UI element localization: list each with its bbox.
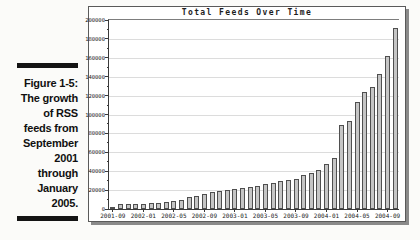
bar [271, 183, 276, 209]
bar [202, 194, 207, 209]
plot-area: 0200004000060000800001000001200001400001… [108, 19, 399, 210]
y-axis-minor-tick [107, 67, 109, 68]
bar [217, 191, 222, 209]
y-axis-major-tick [105, 209, 109, 210]
y-axis-minor-tick [107, 199, 109, 200]
y-axis-label: 200000 [75, 17, 105, 23]
bar [171, 201, 176, 209]
x-axis-label: 2004-09 [375, 212, 400, 219]
bar [377, 74, 382, 209]
bar [194, 196, 199, 209]
bar [156, 203, 161, 209]
y-axis-minor-tick [107, 123, 109, 124]
bar [301, 175, 306, 209]
y-axis-label: 160000 [75, 55, 105, 61]
caption-line: through [8, 166, 78, 181]
x-axis-label: 2002-09 [192, 212, 217, 219]
x-axis-label: 2003-05 [253, 212, 278, 219]
y-axis-minor-tick [107, 29, 109, 30]
y-axis-major-tick [105, 20, 109, 21]
bar [370, 87, 375, 209]
x-axis-label: 2002-05 [161, 212, 186, 219]
y-axis-minor-tick [107, 180, 109, 181]
x-axis-label: 2003-01 [222, 212, 247, 219]
caption-top-rule [17, 63, 78, 68]
bar [149, 203, 154, 209]
y-gridline [109, 77, 399, 78]
x-axis-label: 2001-09 [100, 212, 125, 219]
y-axis-minor-tick [107, 48, 109, 49]
bar [263, 184, 268, 209]
bar [225, 190, 230, 209]
y-axis-major-tick [105, 76, 109, 77]
bar [339, 125, 344, 209]
y-axis-label: 100000 [75, 112, 105, 118]
bar [309, 173, 314, 209]
caption-line: 2005. [8, 196, 78, 211]
y-axis-label: 20000 [75, 187, 105, 193]
y-axis-minor-tick [107, 142, 109, 143]
bar [393, 28, 398, 209]
y-axis-label: 60000 [75, 149, 105, 155]
caption-line: The growth [8, 91, 78, 106]
y-axis-major-tick [105, 190, 109, 191]
bar [210, 192, 215, 209]
bar [232, 189, 237, 209]
figure-caption: Figure 1-5: The growth of RSS feeds from… [8, 63, 78, 221]
caption-line: of RSS [8, 106, 78, 121]
bar [164, 202, 169, 209]
y-axis-major-tick [105, 152, 109, 153]
chart-window: Total Feeds Over Time 020000400006000080… [88, 6, 406, 222]
y-axis-major-tick [105, 133, 109, 134]
bar [179, 200, 184, 209]
bar [126, 204, 131, 209]
bar [240, 188, 245, 209]
y-axis-label: 40000 [75, 168, 105, 174]
y-axis-minor-tick [107, 105, 109, 106]
figure-label: Figure 1-5: [8, 76, 78, 91]
x-axis-label: 2003-09 [283, 212, 308, 219]
bar [362, 92, 367, 209]
caption-line: feeds from [8, 121, 78, 136]
caption-line: 2001 [8, 151, 78, 166]
y-axis-label: 80000 [75, 130, 105, 136]
bar [278, 181, 283, 209]
y-gridline [109, 96, 399, 97]
y-axis-label: 140000 [75, 74, 105, 80]
bar [187, 197, 192, 209]
y-gridline [109, 39, 399, 40]
y-axis-minor-tick [107, 161, 109, 162]
y-axis-label: 180000 [75, 36, 105, 42]
chart-title: Total Feeds Over Time [89, 8, 405, 18]
caption-line: September [8, 136, 78, 151]
y-axis-major-tick [105, 95, 109, 96]
y-axis-major-tick [105, 57, 109, 58]
bar [255, 186, 260, 209]
bar [355, 102, 360, 209]
y-axis-major-tick [105, 171, 109, 172]
bar [332, 158, 337, 209]
bar [286, 180, 291, 209]
bar [316, 170, 321, 209]
x-axis-label: 2004-01 [314, 212, 339, 219]
y-axis-major-tick [105, 114, 109, 115]
y-axis-label: 120000 [75, 93, 105, 99]
x-axis-label: 2004-05 [344, 212, 369, 219]
bar [385, 56, 390, 209]
bar [324, 164, 329, 209]
bar [248, 187, 253, 209]
bar [133, 204, 138, 209]
bar [118, 204, 123, 209]
bar [347, 121, 352, 209]
y-axis-minor-tick [107, 86, 109, 87]
x-axis-label: 2002-01 [131, 212, 156, 219]
y-axis-major-tick [105, 38, 109, 39]
caption-line: January [8, 181, 78, 196]
caption-bottom-rule [17, 216, 78, 221]
bar [294, 179, 299, 209]
y-gridline [109, 58, 399, 59]
